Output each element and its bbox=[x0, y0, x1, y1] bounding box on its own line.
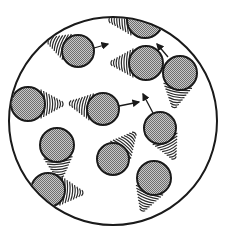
particle bbox=[97, 132, 136, 175]
particle bbox=[31, 173, 83, 207]
particle-circle bbox=[40, 128, 74, 162]
particle bbox=[46, 34, 108, 67]
particle-circle bbox=[137, 161, 171, 195]
particle bbox=[11, 87, 63, 121]
velocity-arrow-icon bbox=[119, 102, 139, 106]
particle-circle bbox=[62, 35, 94, 67]
particle-circle bbox=[163, 56, 197, 90]
particle-circle bbox=[87, 93, 119, 125]
particle-circle bbox=[129, 46, 163, 80]
velocity-arrow-icon bbox=[143, 94, 153, 113]
particle-circle bbox=[11, 87, 45, 121]
particle-circle bbox=[97, 143, 129, 175]
velocity-arrow-icon bbox=[94, 44, 108, 48]
particle-circle bbox=[127, 2, 163, 38]
particle bbox=[111, 46, 163, 80]
particle-circle bbox=[144, 112, 176, 144]
particle-container-diagram bbox=[0, 0, 226, 239]
particle bbox=[136, 161, 171, 211]
particle bbox=[69, 93, 139, 125]
particle bbox=[40, 128, 74, 180]
